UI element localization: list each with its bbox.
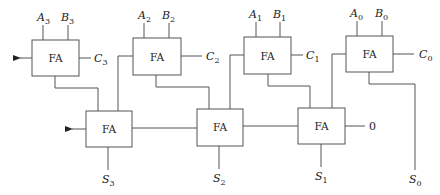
input-a3: A3 (36, 11, 50, 26)
input-b3: B3 (60, 11, 74, 26)
fa-label: FA (49, 52, 63, 64)
input-b1: B1 (272, 8, 286, 23)
full-adder-top-1: FA A1 B1 C1 (244, 8, 320, 74)
full-adder-bottom-3: FA S3 (72, 111, 132, 188)
carry-c1: C1 (306, 49, 320, 64)
carry-c2: C2 (206, 50, 220, 65)
full-adder-top-0: FA A0 B0 C0 (346, 7, 433, 72)
sum-s0: S0 (409, 173, 422, 188)
carry-c0: C0 (419, 48, 433, 63)
adder-diagram: FA A3 B3 C3 FA A2 B2 C2 FA A1 B1 C1 FA A… (0, 0, 440, 195)
input-a1: A1 (248, 8, 262, 23)
sum-s3: S3 (102, 173, 115, 188)
input-b2: B2 (161, 9, 175, 24)
input-a2: A2 (137, 9, 151, 24)
fa-label: FA (102, 123, 116, 135)
input-a0: A0 (349, 7, 363, 22)
input-b0: B0 (374, 7, 388, 22)
fa-label: FA (261, 50, 275, 62)
fa-label: FA (213, 121, 227, 133)
fa-label: FA (363, 48, 377, 60)
full-adder-bottom-1: FA 0 S1 (298, 108, 376, 185)
sum-s1: S1 (315, 170, 328, 185)
full-adder-top-3: FA A3 B3 C3 (20, 11, 108, 76)
sum-s2: S2 (213, 172, 226, 187)
fa-label: FA (315, 120, 329, 132)
full-adder-bottom-2: FA S2 (197, 109, 243, 187)
carry-in-zero: 0 (369, 120, 376, 133)
fa-label: FA (150, 51, 164, 63)
full-adder-top-2: FA A2 B2 C2 (133, 9, 220, 75)
carry-c3: C3 (94, 52, 108, 67)
